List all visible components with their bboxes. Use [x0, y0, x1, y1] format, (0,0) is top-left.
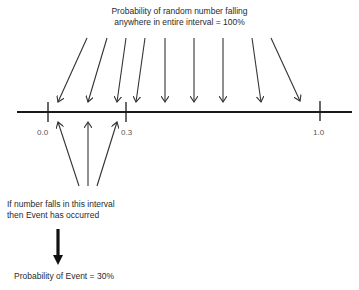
tick-label-0-3: 0.3 — [121, 127, 132, 138]
arrow-icon — [58, 38, 87, 102]
arrow-icon — [252, 38, 261, 102]
arrow-icon — [58, 122, 79, 186]
diagram-canvas — [0, 0, 359, 290]
tick-label-0-0: 0.0 — [37, 127, 48, 138]
arrow-icon — [88, 38, 107, 102]
event-note-line-2: then Event has occurred — [7, 210, 115, 221]
tick-label-1-0: 1.0 — [313, 127, 324, 138]
event-note: If number falls in this interval then Ev… — [7, 199, 115, 221]
up-arrows — [58, 122, 117, 186]
arrow-icon — [97, 122, 117, 186]
arrow-icon — [136, 38, 145, 102]
down-arrows — [58, 38, 300, 102]
result-text: Probability of Event = 30% — [14, 271, 114, 282]
arrow-icon — [271, 38, 300, 101]
event-note-line-1: If number falls in this interval — [7, 199, 115, 210]
arrow-icon — [117, 38, 126, 102]
